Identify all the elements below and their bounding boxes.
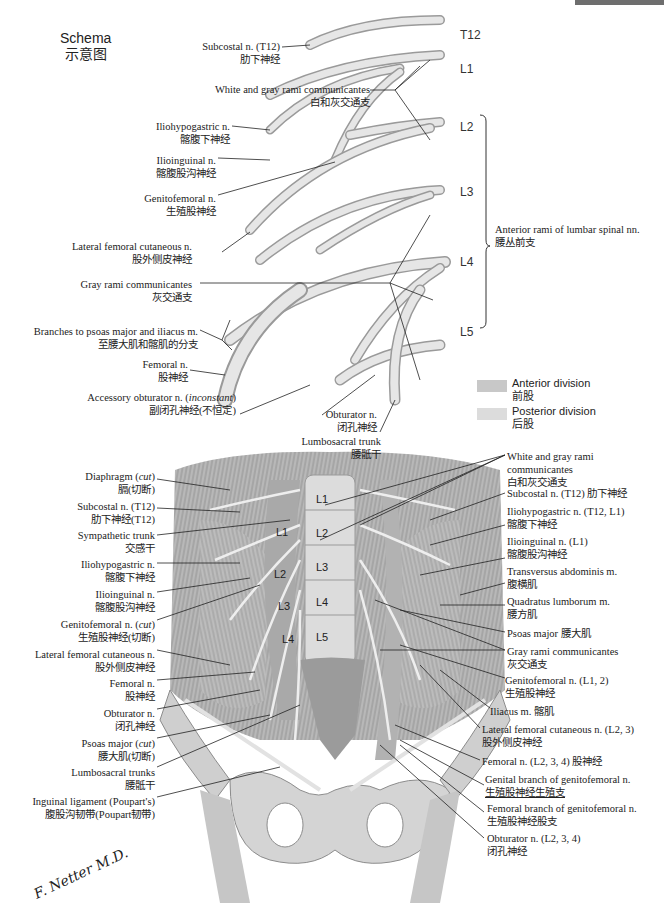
schema-title-en: Schema bbox=[60, 30, 111, 46]
label-psoas-major: Psoas major 腰大肌 bbox=[507, 627, 591, 640]
label-femoral-n-l2-3-4: Femoral n. (L2, 3, 4) 股神经 bbox=[482, 755, 602, 768]
label-subcostal-n-right: Subcostal n. (T12) 肋下神经 bbox=[507, 487, 628, 500]
vertebra-l1: L1 bbox=[316, 493, 328, 505]
legend-posterior: Posterior division 后股 bbox=[512, 405, 596, 431]
level-label-t12: T12 bbox=[460, 28, 481, 42]
label-ilioinguinal-n-2: Ilioinguinal n. 髂腹股沟神经 bbox=[95, 588, 155, 614]
label-lateral-femoral-cutaneous-l2-3: Lateral femoral cutaneous n. (L2, 3) 股外侧… bbox=[482, 723, 634, 749]
label-ilioinguinal-n: Ilioinguinal n. 髂腹股沟神经 bbox=[156, 154, 216, 180]
level-label-l4: L4 bbox=[460, 255, 473, 269]
legend-anterior: Anterior division 前股 bbox=[512, 377, 590, 403]
label-iliohypogastric-n-t12-l1: Iliohypogastric n. (T12, L1) 髂腹下神经 bbox=[507, 505, 625, 531]
label-obturator-n-2: Obturator n. 闭孔神经 bbox=[104, 707, 155, 733]
level-label-l2: L2 bbox=[460, 120, 473, 134]
label-sympathetic-trunk: Sympathetic trunk 交感干 bbox=[78, 529, 155, 555]
legend-swatch-posterior bbox=[477, 408, 507, 420]
label-lumbosacral-trunk: Lumbosacral trunk 腰骶干 bbox=[301, 435, 381, 461]
dissection-body bbox=[160, 452, 510, 903]
label-subcostal-n-t12: Subcostal n. (T12) 肋下神经(T12) bbox=[77, 500, 155, 526]
vertebra-l3: L3 bbox=[316, 561, 328, 573]
level-label-l1: L1 bbox=[460, 62, 473, 76]
label-gray-rami-communicantes: Gray rami communicantes 灰交通支 bbox=[81, 278, 192, 304]
label-femoral-n: Femoral n. 股神经 bbox=[143, 358, 189, 384]
label-iliohypogastric-n: Iliohypogastric n. 髂腹下神经 bbox=[156, 120, 230, 146]
legend-swatch-anterior bbox=[477, 380, 507, 392]
label-white-gray-rami: White and gray rami communicantes 白和灰交通支 bbox=[215, 83, 370, 109]
level-label-l3: L3 bbox=[460, 185, 473, 199]
label-diaphragm-cut: Diaphragm (cut) 膈(切断) bbox=[85, 470, 155, 496]
label-genitofemoral-n-l1-2: Genitofemoral n. (L1, 2) 生殖股神经 bbox=[505, 674, 609, 700]
vertebra-l4: L4 bbox=[316, 596, 328, 608]
label-gray-rami-communicantes-2: Gray rami communicantes 灰交通支 bbox=[507, 645, 618, 671]
label-lumbosacral-trunks: Lumbosacral trunks 腰骶干 bbox=[71, 766, 155, 792]
label-obturator-n: Obturator n. 闭孔神经 bbox=[326, 408, 377, 434]
label-obturator-n-l2-3-4: Obturator n. (L2, 3, 4) 闭孔神经 bbox=[487, 832, 581, 858]
label-femoral-n-2: Femoral n. 股神经 bbox=[110, 677, 156, 703]
label-quadratus-lumborum: Quadratus lumborum m. 腰方肌 bbox=[507, 595, 610, 621]
label-lateral-femoral-cutaneous-n: Lateral femoral cutaneous n. 股外侧皮神经 bbox=[72, 240, 192, 266]
label-white-gray-rami-2: White and gray rami communicantes 白和灰交通支 bbox=[507, 450, 594, 489]
schema-nerves bbox=[225, 20, 445, 400]
label-genitofemoral-n: Genitofemoral n. 生殖股神经 bbox=[144, 192, 216, 218]
schema-title-cn: 示意图 bbox=[60, 46, 111, 62]
label-iliohypogastric-n-2: Iliohypogastric n. 髂腹下神经 bbox=[81, 558, 155, 584]
label-femoral-branch: Femoral branch of genitofemoral n. 生殖股神经… bbox=[487, 802, 637, 828]
root-label-l4: L4 bbox=[282, 633, 294, 645]
label-accessory-obturator-n: Accessory obturator n. (inconstant) 副闭孔神… bbox=[87, 391, 236, 417]
bracket bbox=[480, 115, 490, 328]
label-lateral-femoral-cutaneous-n-2: Lateral femoral cutaneous n. 股外侧皮神经 bbox=[35, 648, 155, 674]
root-label-l3: L3 bbox=[278, 600, 290, 612]
vertebra-l2: L2 bbox=[316, 527, 328, 539]
vertebra-l5: L5 bbox=[316, 631, 328, 643]
bracket-label: Anterior rami of lumbar spinal nn. 腰丛前支 bbox=[495, 223, 640, 249]
root-label-l1: L1 bbox=[276, 526, 288, 538]
label-genitofemoral-n-cut: Genitofemoral n. (cut) 生殖股神经(切断) bbox=[61, 618, 155, 644]
label-transversus-abdominis: Transversus abdominis m. 腹横肌 bbox=[507, 565, 617, 591]
label-inguinal-ligament: Inguinal ligament (Poupart's) 腹股沟韧带(Poup… bbox=[32, 795, 155, 821]
label-branches-psoas-iliacus: Branches to psoas major and iliacus m. 至… bbox=[34, 325, 198, 351]
level-label-l5: L5 bbox=[460, 325, 473, 339]
schema-title: Schema 示意图 bbox=[60, 30, 111, 62]
label-genital-branch: Genital branch of genitofemoral n. 生殖股神经… bbox=[485, 773, 631, 799]
label-psoas-major-cut: Psoas major (cut) 腰大肌(切断) bbox=[82, 737, 156, 763]
label-ilioinguinal-n-l1: Ilioinguinal n. (L1) 髂腹股沟神经 bbox=[507, 535, 588, 561]
label-subcostal-n: Subcostal n. (T12) 肋下神经 bbox=[202, 40, 280, 66]
root-label-l2: L2 bbox=[274, 568, 286, 580]
label-iliacus: Iliacus m. 髂肌 bbox=[490, 705, 554, 718]
